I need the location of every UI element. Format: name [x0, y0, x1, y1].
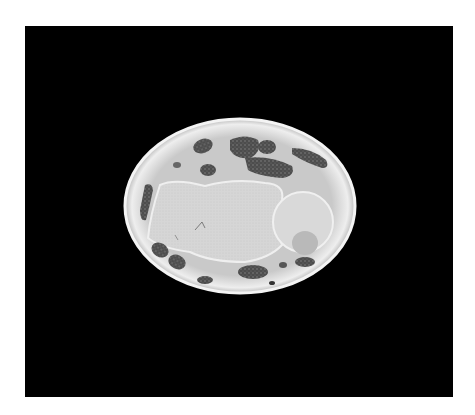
dark-region	[173, 162, 181, 168]
dark-region	[258, 140, 276, 154]
dark-region	[279, 262, 287, 268]
dark-region	[197, 276, 213, 284]
cross-section-specimen	[0, 0, 475, 415]
dark-region	[200, 164, 216, 176]
dark-region	[269, 281, 275, 285]
right-inner-circle	[292, 231, 318, 255]
dark-region	[238, 265, 268, 279]
dark-region	[295, 257, 315, 267]
